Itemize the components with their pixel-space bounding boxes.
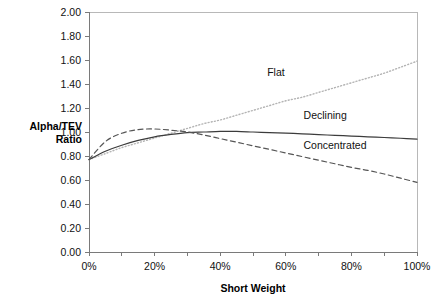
y-tick-label: 2.00 — [61, 6, 82, 18]
series-label-declining: Declining — [304, 109, 347, 121]
x-axis-ticks — [89, 252, 417, 256]
y-tick-label: 1.60 — [61, 54, 82, 66]
y-axis-title-line2: Ratio — [56, 133, 82, 145]
y-tick-label: 0.20 — [61, 222, 82, 234]
x-axis: 0%20%40%60%80%100% — [81, 252, 430, 272]
alpha-tev-ratio-line-chart: 0.000.200.400.600.801.001.201.401.601.80… — [0, 0, 436, 303]
y-axis-title-line1: Alpha/TEV — [29, 120, 82, 132]
chart-container: 0.000.200.400.600.801.001.201.401.601.80… — [0, 0, 436, 303]
x-tick-label: 100% — [404, 260, 431, 272]
series-line-declining — [89, 131, 417, 159]
x-tick-label: 40% — [210, 260, 231, 272]
series-line-flat — [89, 61, 417, 159]
x-tick-label: 20% — [144, 260, 165, 272]
series-lines — [89, 61, 417, 182]
x-axis-tick-labels: 0%20%40%60%80%100% — [81, 260, 430, 272]
series-annotations: FlatDecliningConcentrated — [267, 66, 366, 151]
y-tick-label: 0.40 — [61, 198, 82, 210]
series-label-flat: Flat — [267, 66, 285, 78]
y-tick-label: 0.80 — [61, 150, 82, 162]
x-tick-label: 0% — [81, 260, 96, 272]
x-tick-label: 80% — [341, 260, 362, 272]
y-tick-label: 0.60 — [61, 174, 82, 186]
x-tick-label: 60% — [275, 260, 296, 272]
x-axis-title: Short Weight — [220, 282, 286, 294]
y-tick-label: 1.40 — [61, 78, 82, 90]
y-tick-label: 1.20 — [61, 102, 82, 114]
y-tick-label: 1.80 — [61, 30, 82, 42]
y-axis-ticks — [85, 12, 89, 252]
y-tick-label: 0.00 — [61, 246, 82, 258]
series-label-concentrated: Concentrated — [303, 139, 366, 151]
